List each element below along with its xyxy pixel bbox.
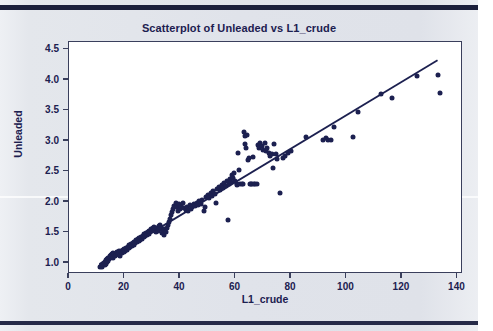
data-point [390, 95, 395, 100]
data-point [288, 149, 293, 154]
data-point [415, 74, 420, 79]
x-tick-label: 80 [270, 281, 310, 292]
data-point [214, 201, 219, 206]
x-tick-mark [123, 273, 124, 278]
x-tick-mark [234, 273, 235, 278]
x-tick-label: 20 [103, 281, 143, 292]
y-axis-label: Unleaded [12, 110, 24, 157]
x-tick-mark [178, 273, 179, 278]
data-point [244, 146, 249, 151]
data-point [355, 110, 360, 115]
x-tick-label: 120 [381, 281, 421, 292]
x-tick-label: 60 [214, 281, 254, 292]
x-tick-label: 140 [436, 281, 476, 292]
y-tick-label: 2.0 [33, 195, 59, 206]
x-tick-label: 0 [48, 281, 88, 292]
x-axis-label: L1_crude [68, 293, 462, 305]
data-point [436, 72, 441, 77]
data-point [240, 182, 245, 187]
data-point [225, 218, 230, 223]
plot-area [68, 41, 462, 273]
x-tick-mark [289, 273, 290, 278]
data-point [438, 90, 443, 95]
y-tick-label: 3.5 [33, 104, 59, 115]
x-tick-mark [67, 273, 68, 278]
data-point [329, 137, 334, 142]
y-tick-label: 2.5 [33, 165, 59, 176]
data-point [277, 190, 282, 195]
data-point [331, 124, 336, 129]
data-point [304, 134, 309, 139]
data-point [236, 151, 241, 156]
right-margin [478, 0, 493, 331]
data-layer [69, 42, 461, 272]
y-tick-label: 4.5 [33, 43, 59, 54]
data-point [270, 165, 275, 170]
data-point [254, 182, 259, 187]
data-point [202, 205, 207, 210]
data-point [275, 157, 280, 162]
data-point [212, 192, 217, 197]
y-tick-label: 3.0 [33, 134, 59, 145]
y-tick-label: 4.0 [33, 73, 59, 84]
x-tick-mark [456, 273, 457, 278]
data-point [245, 132, 250, 137]
regression-line [69, 42, 461, 272]
data-point [251, 154, 256, 159]
x-tick-mark [345, 273, 346, 278]
scanned-page: Scatterplot of Unleaded vs L1_crude 1.01… [0, 0, 493, 331]
data-point [272, 141, 277, 146]
data-point [237, 168, 242, 173]
y-tick-label: 1.5 [33, 226, 59, 237]
scatterplot-figure: Scatterplot of Unleaded vs L1_crude 1.01… [0, 10, 478, 321]
data-point [351, 135, 356, 140]
y-tick-label: 1.0 [33, 257, 59, 268]
data-point [379, 91, 384, 96]
data-point [163, 230, 168, 235]
bottom-border-band [0, 321, 478, 325]
x-tick-label: 40 [159, 281, 199, 292]
x-tick-label: 100 [325, 281, 365, 292]
x-tick-mark [400, 273, 401, 278]
